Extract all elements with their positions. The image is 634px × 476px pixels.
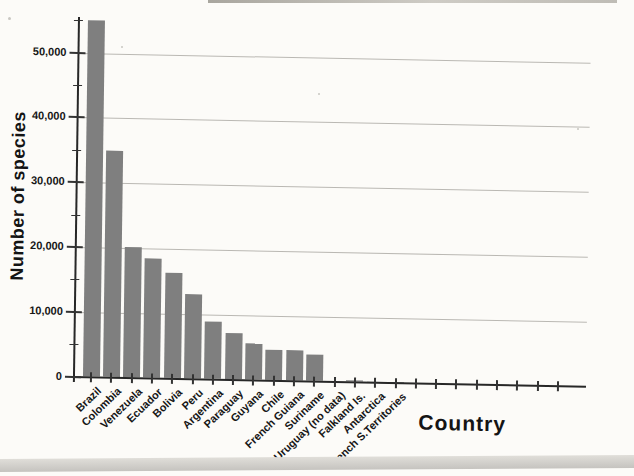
y-minor-tick-25000 xyxy=(71,214,80,215)
y-tick-50000 xyxy=(69,51,85,53)
x-tick-19 xyxy=(455,379,457,389)
x-tick-6 xyxy=(191,374,193,384)
y-tick-label: 0 xyxy=(2,368,62,381)
gridline-30000 xyxy=(77,182,589,193)
x-tick-20 xyxy=(476,379,478,389)
x-tick-11 xyxy=(293,376,295,386)
y-tick-label: 20,000 xyxy=(4,239,64,252)
bar-venezuela xyxy=(123,247,142,378)
bar-ecuador xyxy=(143,259,162,379)
bar-argentina xyxy=(204,321,222,379)
y-tick-30000 xyxy=(68,181,84,183)
y-tick-label: 50,000 xyxy=(6,44,66,57)
bar-paraguay xyxy=(225,333,243,380)
bar-colombia xyxy=(103,150,123,377)
y-tick-20000 xyxy=(67,246,83,248)
x-tick-12 xyxy=(313,376,315,386)
gridline-40000 xyxy=(78,117,590,128)
x-tick-16 xyxy=(394,378,396,388)
bar-peru xyxy=(184,294,202,379)
y-minor-tick-35000 xyxy=(72,150,81,151)
x-tick-17 xyxy=(415,378,417,388)
gridline-20000 xyxy=(76,247,588,258)
y-minor-tick-55000 xyxy=(74,20,83,21)
x-tick-2 xyxy=(110,372,112,382)
x-tick-22 xyxy=(516,380,518,390)
x-tick-7 xyxy=(212,374,214,384)
x-tick-24 xyxy=(557,381,559,391)
plot-area: 010,00020,00030,00040,00050,000BrazilCol… xyxy=(0,0,617,476)
y-tick-0 xyxy=(65,375,81,377)
x-tick-21 xyxy=(496,380,498,390)
bar-bolivia xyxy=(164,273,182,379)
x-tick-1 xyxy=(90,372,92,382)
x-tick-5 xyxy=(171,373,173,383)
scan-edge-top xyxy=(208,0,617,3)
y-tick-label: 10,000 xyxy=(3,303,63,316)
y-minor-tick-45000 xyxy=(73,85,82,86)
x-tick-23 xyxy=(537,380,539,390)
x-tick-18 xyxy=(435,378,437,388)
y-minor-tick-5000 xyxy=(69,344,78,345)
x-tick-9 xyxy=(252,375,254,385)
y-tick-label: 40,000 xyxy=(6,109,66,122)
y-tick-10000 xyxy=(66,311,82,313)
species-by-country-bar-chart: Number of species Country 010,00020,0003… xyxy=(0,0,617,476)
y-tick-label: 30,000 xyxy=(5,174,65,187)
x-tick-14 xyxy=(354,377,356,387)
y-axis-line xyxy=(73,17,80,382)
x-tick-3 xyxy=(131,373,133,383)
x-tick-13 xyxy=(334,376,336,386)
x-tick-4 xyxy=(151,373,153,383)
x-tick-10 xyxy=(273,375,275,385)
x-tick-8 xyxy=(232,375,234,385)
y-tick-40000 xyxy=(69,116,85,118)
gridline-50000 xyxy=(78,53,590,64)
y-minor-tick-15000 xyxy=(70,279,79,280)
x-tick-15 xyxy=(374,377,376,387)
bar-brazil xyxy=(82,20,104,377)
